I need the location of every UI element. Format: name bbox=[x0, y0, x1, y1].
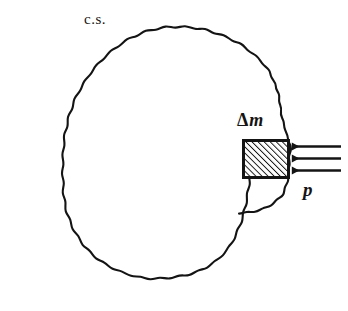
control-surface-label: c.s. bbox=[84, 12, 106, 27]
delta-mass-label: Δm bbox=[237, 111, 263, 129]
mass-variable-symbol: m bbox=[249, 110, 263, 130]
delta-mass-block bbox=[244, 141, 289, 178]
pressure-arrows bbox=[292, 147, 341, 171]
delta-mass-block-rect bbox=[244, 141, 289, 178]
pressure-label: p bbox=[303, 180, 313, 199]
diagram-canvas bbox=[0, 0, 348, 311]
figure-root: c.s. Δm p bbox=[0, 0, 348, 311]
delta-symbol: Δ bbox=[237, 110, 248, 130]
